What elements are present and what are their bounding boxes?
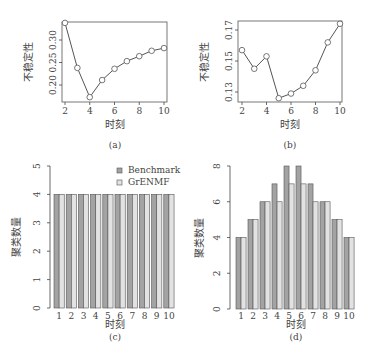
y-tick-label: 2	[32, 248, 42, 254]
x-tick-label: 2	[62, 106, 68, 116]
y-axis-label: 不稳定性	[22, 42, 34, 82]
x-tick-label: 6	[112, 106, 118, 116]
y-tick-label: 0.25	[48, 52, 58, 72]
bar-benchmark	[78, 194, 83, 308]
data-point	[313, 68, 319, 74]
x-tick-label: 8	[313, 106, 319, 116]
x-tick-label: 1	[238, 311, 244, 321]
x-tick-label: 4	[87, 106, 93, 116]
panel-caption: (b)	[284, 140, 297, 150]
legend: BenchmarkGrENMF	[117, 165, 181, 187]
plot-frame	[62, 22, 167, 102]
x-tick-label: 4	[264, 106, 270, 116]
bar-grenmf	[157, 194, 162, 308]
bar-benchmark	[127, 194, 132, 308]
y-tick-label: 8	[212, 163, 222, 169]
bar-grenmf	[108, 194, 113, 308]
x-tick-label: 7	[310, 311, 316, 321]
x-tick-label: 10	[334, 106, 346, 116]
legend-label: Benchmark	[128, 165, 181, 175]
y-tick-label: 4	[212, 234, 222, 240]
x-tick-label: 9	[334, 311, 340, 321]
x-tick-label: 10	[163, 311, 175, 321]
x-tick-label: 2	[68, 311, 74, 321]
bar-benchmark	[296, 166, 301, 309]
x-axis-label: 时刻	[286, 318, 306, 330]
data-point	[136, 53, 142, 59]
y-tick-label: 0.17	[224, 20, 234, 40]
bar-benchmark	[103, 194, 108, 308]
bar-benchmark	[139, 194, 144, 308]
y-tick-label: 2	[212, 270, 222, 276]
data-point	[161, 45, 167, 51]
x-tick-label: 4	[274, 311, 280, 321]
y-axis-label: 聚类数量	[193, 218, 205, 258]
x-axis-label: 时刻	[105, 118, 125, 130]
bar-grenmf	[120, 194, 125, 308]
data-point	[62, 20, 68, 26]
x-tick-label: 2	[250, 311, 256, 321]
data-point	[149, 48, 155, 54]
bar-benchmark	[272, 184, 277, 309]
line-chart-b: 2468100.130.150.17时刻不稳定性(b)	[198, 20, 346, 150]
bar-grenmf	[241, 238, 246, 310]
bar-grenmf	[265, 202, 270, 309]
data-point	[276, 95, 282, 101]
panel-caption: (a)	[109, 140, 121, 150]
bar-grenmf	[96, 194, 101, 308]
plot-frame	[238, 21, 342, 102]
bar-benchmark	[54, 194, 59, 308]
x-tick-label: 8	[136, 106, 142, 116]
bar-grenmf	[289, 184, 294, 309]
bar-grenmf	[349, 238, 354, 310]
x-tick-label: 8	[142, 311, 148, 321]
bar-benchmark	[332, 220, 337, 309]
data-point	[264, 54, 270, 60]
x-tick-label: 1	[56, 311, 62, 321]
data-point	[325, 40, 331, 46]
bar-grenmf	[277, 202, 282, 309]
legend-swatch	[117, 180, 122, 185]
y-tick-label: 3	[32, 220, 42, 226]
bar-chart-c: 01234512345678910时刻聚类数量(c)BenchmarkGrENM…	[10, 163, 181, 342]
data-point	[112, 66, 118, 72]
x-tick-label: 8	[322, 311, 328, 321]
bar-grenmf	[132, 194, 137, 308]
x-tick-label: 3	[262, 311, 268, 321]
bar-grenmf	[71, 194, 76, 308]
bar-grenmf	[145, 194, 150, 308]
data-point	[124, 58, 130, 64]
bar-grenmf	[59, 194, 64, 308]
y-ticks: 0.200.250.30	[48, 30, 62, 95]
bar-benchmark	[248, 220, 253, 309]
y-axis-label: 聚类数量	[10, 217, 22, 257]
bar-benchmark	[91, 194, 96, 308]
y-axis-label: 不稳定性	[198, 42, 210, 82]
y-tick-label: 6	[212, 199, 222, 205]
data-point	[99, 77, 105, 83]
panel-caption: (d)	[290, 332, 303, 342]
x-tick-label: 4	[93, 311, 99, 321]
y-tick-label: 0.30	[48, 30, 58, 50]
bar-grenmf	[301, 184, 306, 309]
bar-chart-d: 0246812345678910时刻聚类数量(d)	[193, 163, 355, 342]
figure: 2468100.200.250.30时刻不稳定性(a)2468100.130.1…	[0, 0, 373, 359]
y-tick-label: 1	[32, 277, 42, 283]
x-axis-label: 时刻	[105, 318, 125, 330]
data-point	[288, 91, 294, 97]
y-tick-label: 0.13	[224, 82, 234, 102]
x-tick-label: 6	[288, 106, 294, 116]
x-tick-label: 3	[81, 311, 87, 321]
line-chart-a: 2468100.200.250.30时刻不稳定性(a)	[22, 20, 170, 150]
x-tick-label: 10	[158, 106, 170, 116]
x-tick-label: 10	[343, 311, 355, 321]
bar-benchmark	[115, 194, 120, 308]
x-axis-label: 时刻	[280, 118, 300, 130]
y-tick-label: 0	[212, 306, 222, 312]
y-tick-label: 5	[32, 163, 42, 169]
data-line	[242, 24, 340, 98]
data-point	[87, 94, 93, 100]
bar-grenmf	[253, 220, 258, 309]
legend-label: GrENMF	[128, 177, 169, 187]
bar-benchmark	[320, 202, 325, 309]
